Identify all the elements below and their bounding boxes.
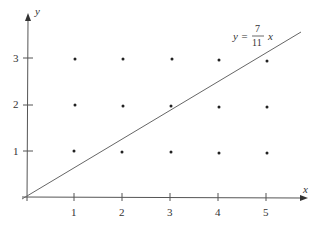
y-tick-label: 3 bbox=[13, 53, 19, 64]
equation-lhs: y = bbox=[233, 31, 248, 42]
x-tick-label: 4 bbox=[215, 207, 221, 218]
x-axis-arrow-icon bbox=[300, 195, 308, 201]
y-axis bbox=[27, 20, 28, 201]
line-y-7-11-x bbox=[22, 32, 301, 199]
lattice-points bbox=[73, 58, 269, 155]
x-tick-label: 1 bbox=[71, 207, 77, 218]
x-axis bbox=[22, 197, 302, 198]
equation-denominator: 11 bbox=[252, 38, 262, 48]
equation-rhs: x bbox=[268, 31, 273, 42]
equation-numerator: 7 bbox=[255, 24, 260, 34]
x-tick-label: 3 bbox=[167, 207, 173, 218]
y-axis-label: y bbox=[35, 6, 40, 17]
y-tick-label: 2 bbox=[13, 99, 19, 110]
x-tick-label: 2 bbox=[119, 207, 125, 218]
x-axis-label: x bbox=[303, 184, 308, 195]
x-tick-label: 5 bbox=[263, 207, 269, 218]
y-tick-label: 1 bbox=[13, 146, 19, 157]
y-axis-arrow-icon bbox=[25, 13, 31, 21]
